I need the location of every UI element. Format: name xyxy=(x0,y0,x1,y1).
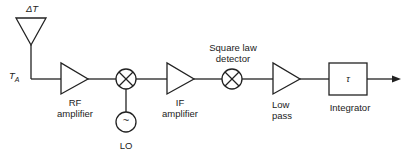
delta-t-label: ΔT xyxy=(24,3,40,14)
antenna-icon xyxy=(16,18,46,45)
rf-amplifier-icon xyxy=(61,63,88,94)
square-law-detector-icon xyxy=(222,69,242,89)
tau-symbol: τ xyxy=(341,73,355,84)
mixer-icon xyxy=(116,69,136,89)
lo-symbol: ~ xyxy=(116,115,136,126)
integrator-label: Integrator xyxy=(325,102,375,113)
output-arrow-icon xyxy=(392,76,401,83)
low-pass-filter-icon xyxy=(273,63,300,94)
square-law-detector-label: Square lawdetector xyxy=(202,42,264,64)
if-amplifier-icon xyxy=(167,63,194,94)
ta-label: TA xyxy=(9,70,19,85)
if-amplifier-label: IFamplifier xyxy=(155,97,205,119)
lo-label: LO xyxy=(114,140,138,151)
low-pass-label: Lowpass xyxy=(272,99,292,121)
rf-amplifier-label: RFamplifier xyxy=(50,97,100,119)
